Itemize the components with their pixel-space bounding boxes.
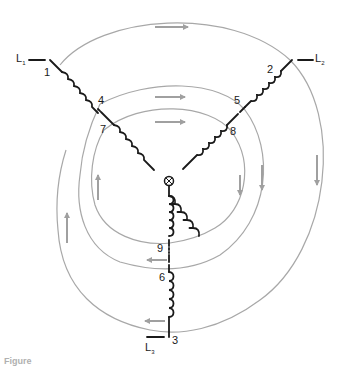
label-L2: L2 [315,53,324,64]
terminal-7: 7 [100,124,106,135]
coil-6-3 [169,272,174,317]
coil-8-center [183,125,227,169]
figure-caption: Figure [4,356,32,366]
windings [29,60,313,337]
flux-arrows [67,27,317,321]
terminal-6: 6 [159,272,165,283]
terminal-4: 4 [98,95,104,106]
terminal-8: 8 [230,126,236,137]
coil-2-5 [245,71,281,107]
terminal-1: 1 [44,67,50,78]
coil-1-4 [62,72,98,113]
label-L3: L3 [145,342,154,353]
terminal-3: 3 [172,335,178,346]
terminal-2: 2 [267,64,273,75]
label-L1: L1 [16,53,25,64]
terminal-9: 9 [157,243,163,254]
terminal-5: 5 [234,95,240,106]
coil-7-center [114,125,154,170]
